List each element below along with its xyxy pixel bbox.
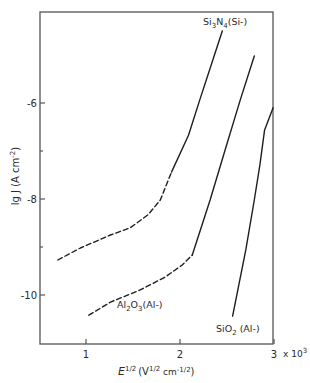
y-axis-label: lg J (A cm-2) (9, 147, 21, 206)
chart-figure: -6-8-10 123 lg J (A cm-2) E1/2(V1/2 cm-1… (0, 0, 310, 383)
x-axis-label: E1/2(V1/2 cm-1/2) (118, 365, 195, 378)
curve-sio2-al-solid (233, 108, 274, 316)
curve-si3n4-si-solid (172, 31, 223, 172)
series-label-al2o3: Al2O3(Al-) (117, 299, 163, 313)
curve-al2o3-al-solid (192, 56, 254, 255)
x-axis-ticks: 123 (83, 339, 277, 360)
x-multiplier-label: x 103 (283, 347, 307, 359)
curves (58, 31, 273, 316)
y-axis-ticks: -6-8-10 (21, 98, 45, 301)
series-label-si3n4: Si3N4(Si-) (203, 16, 247, 30)
x-tick-label: 1 (83, 349, 89, 360)
x-tick-label: 2 (177, 349, 183, 360)
y-tick-label: -8 (27, 194, 37, 205)
plot-frame (40, 12, 273, 344)
series-label-sio2: SiO2 (Al-) (216, 323, 260, 337)
x-tick-label: 3 (271, 349, 277, 360)
curve-si3n4-si-dashed (58, 172, 172, 260)
y-tick-label: -6 (27, 98, 37, 109)
y-tick-label: -10 (21, 290, 37, 301)
